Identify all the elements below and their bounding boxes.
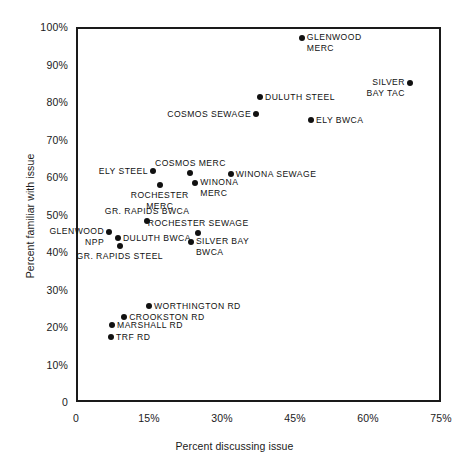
x-tick-label: 0 (73, 412, 79, 424)
y-axis-title: Percent familiar with issue (24, 101, 36, 331)
data-point (109, 322, 115, 328)
data-point-label: WORTHINGTON RD (154, 301, 241, 312)
x-tick-label: 15% (138, 412, 160, 424)
plot-area: GLENWOOD MERCSILVER BAY TACDULUTH STEELC… (76, 27, 441, 402)
y-tick-label: 40% (46, 246, 68, 258)
y-tick-label: 20% (46, 321, 68, 333)
data-point-label: GR. RAPIDS STEEL (77, 251, 163, 262)
data-point-label: MARSHALL RD (117, 320, 183, 331)
data-point-label: DULUTH STEEL (265, 91, 335, 102)
data-point (106, 229, 112, 235)
data-point (117, 243, 123, 249)
data-point-label: COSMOS SEWAGE (167, 109, 251, 120)
data-point-label: GR. RAPIDS BWCA (105, 206, 190, 217)
data-point-label: WINONA SEWAGE (236, 169, 317, 180)
data-point-label: GLENWOOD MERC (307, 32, 362, 53)
y-tick-label: 0 (62, 396, 68, 408)
data-point-label: ELY STEEL (99, 166, 148, 177)
y-tick-label: 100% (40, 21, 68, 33)
data-point-label: SILVER BAY BWCA (196, 236, 249, 257)
data-point-label: COSMOS MERC (155, 158, 226, 169)
y-tick-label: 90% (46, 59, 68, 71)
y-tick-label: 50% (46, 209, 68, 221)
scatter-plot-figure: 010%20%30%40%50%60%70%80%90%100% GLENWOO… (0, 0, 469, 463)
data-point (407, 80, 413, 86)
data-point-label: DULUTH BWCA (123, 233, 191, 244)
x-tick-label: 75% (430, 412, 452, 424)
x-axis-title: Percent discussing issue (0, 440, 469, 452)
data-point-label: TRF RD (116, 331, 150, 342)
data-point (188, 239, 194, 245)
data-point (253, 111, 259, 117)
data-point-label: ROCHESTER SEWAGE (148, 218, 249, 229)
data-point-label: SILVER BAY TAC (367, 77, 405, 98)
data-point (115, 235, 121, 241)
data-point-label: WINONA MERC (200, 177, 238, 198)
data-point (146, 303, 152, 309)
data-point (108, 334, 114, 340)
data-point-label: GLENWOOD NPP (49, 226, 104, 247)
data-point (257, 94, 263, 100)
y-tick-label: 30% (46, 284, 68, 296)
y-tick-label: 10% (46, 359, 68, 371)
data-point (187, 170, 193, 176)
data-point-label: ELY BWCA (316, 115, 363, 126)
data-point (192, 180, 198, 186)
data-point (308, 117, 314, 123)
y-tick-label: 60% (46, 171, 68, 183)
x-tick-label: 60% (357, 412, 379, 424)
data-point (157, 182, 163, 188)
y-tick-label: 80% (46, 96, 68, 108)
data-point (299, 35, 305, 41)
x-tick-label: 45% (284, 412, 306, 424)
x-tick-label: 30% (211, 412, 233, 424)
data-point (150, 168, 156, 174)
y-tick-label: 70% (46, 134, 68, 146)
